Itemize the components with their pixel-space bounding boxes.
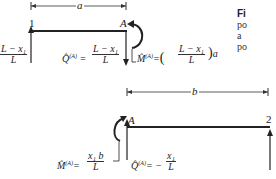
moment-upper-label: M̂(A)=( [137,51,164,64]
node-label-A-upper: A [120,18,127,29]
caption-label: Fi [237,8,276,19]
shear-upper-value: L − x₁ L [92,44,119,65]
node-label-1: 1 [29,18,35,29]
moment-upper-factor: )a [208,48,218,59]
figure-caption: Fi po a po [237,8,276,52]
node-label-2: 2 [266,114,272,125]
node-label-A-lower: A [128,115,135,126]
moment-lower-label: M̂(A)= [57,158,80,171]
moment-upper-value: L − x₁ L [178,44,205,65]
shear-lower-value: x₁ L [166,151,176,172]
shear-lower-label: Q̂(A)= − [131,158,162,171]
caption-line: po [237,19,276,30]
caption-line: po [237,41,276,52]
dimension-label-a: a [76,0,84,11]
moment-arrow-lower-A [114,118,124,141]
moment-arrow-upper-A [130,24,142,48]
dimension-label-b: b [191,86,199,97]
shear-upper-label: Q̂(A) = [62,51,86,64]
beam-diagram [0,0,276,179]
moment-lower-value: x₁ b L [87,151,104,172]
left-reaction-value: L − x₁ L [0,44,27,65]
caption-line: a [237,30,276,41]
